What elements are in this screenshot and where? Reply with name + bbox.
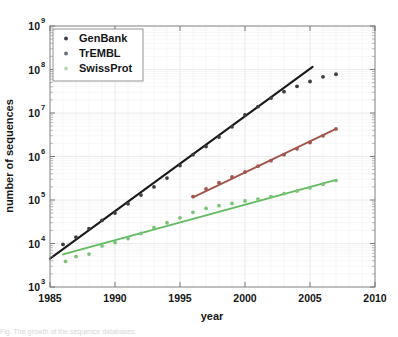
y-tick-label-mantissa: 10 — [28, 238, 40, 250]
data-point — [113, 241, 117, 245]
legend-label-swissprot[interactable]: SwissProt — [79, 62, 133, 74]
data-point — [295, 84, 299, 88]
data-point — [113, 211, 117, 215]
data-point — [282, 192, 286, 196]
data-point — [217, 181, 221, 185]
data-point — [217, 204, 221, 208]
data-point — [74, 235, 78, 239]
y-tick-label-exponent: 3 — [41, 277, 45, 286]
legend-marker-genbank — [64, 37, 68, 41]
legend-marker-swissprot — [64, 67, 68, 71]
x-tick-label: 2010 — [363, 292, 387, 304]
data-point — [61, 243, 65, 247]
data-point — [191, 210, 195, 214]
data-point — [165, 176, 169, 180]
data-point — [64, 259, 68, 263]
data-point — [282, 153, 286, 157]
data-point — [321, 182, 325, 186]
data-point — [295, 147, 299, 151]
x-tick-label: 1990 — [103, 292, 127, 304]
y-tick-label-mantissa: 10 — [28, 151, 40, 163]
chart-legend[interactable]: GenBankTrEMBLSwissProt — [53, 29, 143, 81]
data-point — [87, 252, 91, 256]
y-axis-label: number of sequences — [3, 99, 15, 213]
data-point — [334, 127, 338, 131]
y-tick-label-exponent: 8 — [41, 60, 45, 69]
data-point — [256, 197, 260, 201]
data-point — [204, 145, 208, 149]
y-tick-label-exponent: 9 — [41, 16, 45, 25]
x-tick-label: 2005 — [298, 292, 322, 304]
data-point — [87, 227, 91, 231]
figure-caption: Fig. The growth of the sequence database… — [0, 327, 398, 337]
data-point — [217, 135, 221, 139]
data-point — [230, 175, 234, 179]
data-point — [269, 96, 273, 100]
x-tick-label: 1995 — [168, 292, 192, 304]
data-point — [269, 195, 273, 199]
data-point — [126, 237, 130, 241]
chart-svg: 1985199019952000200520101031041051061071… — [0, 0, 398, 337]
y-tick-label-exponent: 5 — [41, 190, 45, 199]
y-tick-label-mantissa: 10 — [28, 281, 40, 293]
data-point — [282, 90, 286, 94]
data-point — [191, 153, 195, 157]
data-point — [256, 164, 260, 168]
legend-label-genbank[interactable]: GenBank — [79, 32, 128, 44]
y-tick-label-exponent: 4 — [41, 234, 46, 243]
data-point — [126, 202, 130, 206]
y-tick-label-mantissa: 10 — [28, 64, 40, 76]
y-tick-label-mantissa: 10 — [28, 194, 40, 206]
y-tick-label-exponent: 6 — [41, 147, 45, 156]
data-point — [165, 221, 169, 225]
data-point — [308, 186, 312, 190]
data-point — [308, 141, 312, 145]
data-point — [230, 125, 234, 129]
data-point — [178, 164, 182, 168]
data-point — [243, 113, 247, 117]
data-point — [204, 207, 208, 211]
data-point — [139, 232, 143, 236]
data-point — [204, 187, 208, 191]
data-point — [100, 218, 104, 222]
y-tick-label-exponent: 7 — [41, 103, 45, 112]
data-point — [308, 80, 312, 84]
data-point — [191, 195, 195, 199]
data-point — [334, 179, 338, 183]
data-point — [74, 255, 78, 259]
data-point — [295, 189, 299, 193]
y-tick-label-mantissa: 10 — [28, 107, 40, 119]
x-tick-label: 1985 — [38, 292, 62, 304]
x-axis-label: year — [201, 310, 224, 322]
data-point — [321, 75, 325, 79]
data-point — [269, 159, 273, 163]
figure-container: 1985199019952000200520101031041051061071… — [0, 0, 398, 337]
data-point — [139, 193, 143, 197]
data-point — [334, 72, 338, 76]
data-point — [230, 202, 234, 206]
x-tick-label: 2000 — [233, 292, 257, 304]
data-point — [243, 199, 247, 203]
data-point — [243, 170, 247, 174]
data-point — [178, 216, 182, 220]
data-point — [152, 185, 156, 189]
legend-marker-trembl — [64, 52, 68, 56]
data-point — [256, 105, 260, 109]
data-point — [100, 244, 104, 248]
y-tick-label-mantissa: 10 — [28, 20, 40, 32]
legend-label-trembl[interactable]: TrEMBL — [79, 47, 121, 59]
data-point — [152, 226, 156, 230]
data-point — [321, 134, 325, 138]
